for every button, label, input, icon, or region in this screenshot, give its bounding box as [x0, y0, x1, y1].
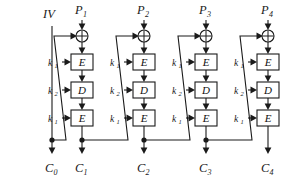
- key-arrowhead-2-1: [127, 59, 134, 66]
- p4-arrowhead: [265, 24, 272, 31]
- d-to-e-arrowhead-1: [79, 104, 86, 111]
- p2-sub: 2: [145, 10, 149, 19]
- iv-to-c0-arrowhead: [49, 148, 56, 155]
- key-sub-2-1: 1: [117, 62, 120, 69]
- key-arrowhead-1-3: [65, 115, 72, 122]
- xor1-to-e1-arrowhead: [79, 48, 86, 55]
- diagram-canvas: E k 1 D k 2 E k 1: [0, 0, 295, 176]
- cipher-box-3-1-label: E: [202, 56, 210, 68]
- p2-arrowhead: [141, 24, 148, 31]
- key-arrowhead-3-3: [189, 115, 196, 122]
- key-label-2-2: k: [110, 86, 115, 96]
- input-labels: IV P 1 P 2 P 3 P 4: [42, 3, 273, 21]
- c1-sub: 1: [84, 168, 88, 176]
- cipher-box-1-2-label: D: [77, 84, 86, 96]
- c3-sub: 3: [207, 168, 212, 176]
- p3-arrowhead: [203, 24, 210, 31]
- key-sub-4-3: 1: [241, 118, 244, 125]
- key-arrowhead-4-3: [251, 115, 258, 122]
- p4-sub: 4: [269, 10, 273, 19]
- key-sub-3-2: 2: [179, 90, 183, 97]
- p3-sub: 3: [206, 10, 211, 19]
- key-label-3-2: k: [172, 86, 177, 96]
- e-to-d-arrowhead-4: [265, 76, 272, 83]
- key-sub-2-2: 2: [117, 90, 121, 97]
- stage4-to-c4-arrowhead: [265, 148, 272, 155]
- output-labels: C 0 C 1 C 2 C 3 C 4: [45, 161, 274, 176]
- cbc-ede-diagram: E k 1 D k 2 E k 1: [0, 0, 295, 176]
- cipher-box-3-2-label: D: [201, 84, 210, 96]
- key-sub-1-2: 2: [55, 90, 59, 97]
- iv-label: IV: [42, 7, 56, 21]
- d-to-e-arrowhead-2: [141, 104, 148, 111]
- key-arrowhead-2-2: [127, 87, 134, 94]
- stage2-to-c2-arrowhead: [141, 148, 148, 155]
- key-sub-4-1: 1: [241, 62, 244, 69]
- key-label-4-2: k: [234, 86, 239, 96]
- cipher-box-4-1-label: E: [264, 56, 272, 68]
- key-arrowhead-2-3: [127, 115, 134, 122]
- p4-label: P: [260, 3, 269, 17]
- key-label-3-3: k: [172, 114, 177, 124]
- e-to-d-arrowhead-2: [141, 76, 148, 83]
- key-sub-1-3: 1: [55, 118, 58, 125]
- p3-label: P: [198, 3, 207, 17]
- p2-label: P: [136, 3, 145, 17]
- p1-arrowhead: [79, 24, 86, 31]
- xor4-to-e1-arrowhead: [265, 48, 272, 55]
- cipher-box-3-3-label: E: [202, 112, 210, 124]
- p1-sub: 1: [83, 10, 87, 19]
- cipher-box-2-2-label: D: [139, 84, 148, 96]
- key-label-4-3: k: [234, 114, 239, 124]
- key-arrowhead-1-1: [65, 59, 72, 66]
- key-arrowhead-3-2: [189, 87, 196, 94]
- cipher-box-2-3-label: E: [140, 112, 148, 124]
- stage1-to-c1-arrowhead: [79, 148, 86, 155]
- key-label-2-1: k: [110, 58, 115, 68]
- xor2-to-e1-arrowhead: [141, 48, 148, 55]
- d-to-e-arrowhead-3: [203, 104, 210, 111]
- key-label-4-1: k: [234, 58, 239, 68]
- e-to-d-arrowhead-3: [203, 76, 210, 83]
- key-arrowhead-4-2: [251, 87, 258, 94]
- c0-sub: 0: [54, 168, 58, 176]
- key-label-2-3: k: [110, 114, 115, 124]
- e-to-d-arrowhead-1: [79, 76, 86, 83]
- key-arrowhead-4-1: [251, 59, 258, 66]
- key-sub-1-1: 1: [55, 62, 58, 69]
- key-arrowhead-3-1: [189, 59, 196, 66]
- d-to-e-arrowhead-4: [265, 104, 272, 111]
- p1-label: P: [74, 3, 83, 17]
- cipher-box-1-1-label: E: [78, 56, 86, 68]
- key-arrowhead-1-2: [65, 87, 72, 94]
- cipher-box-2-1-label: E: [140, 56, 148, 68]
- c2-sub: 2: [146, 168, 150, 176]
- cipher-box-4-2-label: D: [263, 84, 272, 96]
- cipher-box-1-3-label: E: [78, 112, 86, 124]
- cipher-box-4-3-label: E: [264, 112, 272, 124]
- key-sub-4-2: 2: [241, 90, 245, 97]
- key-label-3-1: k: [172, 58, 177, 68]
- c4-sub: 4: [270, 168, 274, 176]
- stage3-to-c3-arrowhead: [203, 148, 210, 155]
- key-sub-3-1: 1: [179, 62, 182, 69]
- xor3-to-e1-arrowhead: [203, 48, 210, 55]
- key-sub-3-3: 1: [179, 118, 182, 125]
- key-sub-2-3: 1: [117, 118, 120, 125]
